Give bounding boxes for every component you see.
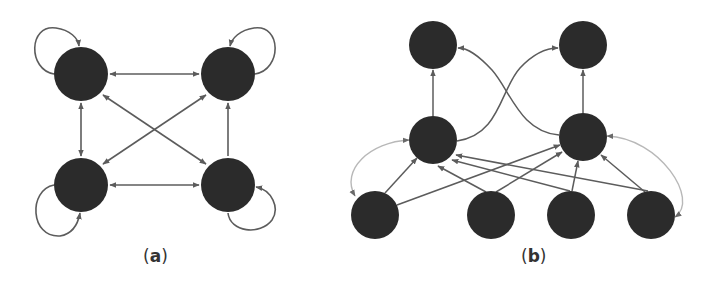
caption-a-letter: a <box>150 246 161 266</box>
node-b-top-right <box>559 21 607 69</box>
node-b-mid-right <box>559 113 607 161</box>
edge-b1-midleft <box>385 158 417 193</box>
node-b-bottom-2 <box>467 191 515 239</box>
node-a1 <box>54 47 108 101</box>
caption-b: (b) <box>521 246 546 266</box>
caption-a-close: ) <box>161 246 168 266</box>
node-b-top-left <box>409 21 457 69</box>
edge-midleft-b1-arc <box>351 140 409 196</box>
edge-b2-midleft <box>438 166 486 192</box>
caption-a-open: ( <box>143 246 150 266</box>
node-b-bottom-3 <box>547 191 595 239</box>
caption-a: (a) <box>143 246 168 266</box>
node-a3 <box>54 158 108 212</box>
node-b-mid-left <box>409 116 457 164</box>
node-a2 <box>201 47 255 101</box>
caption-b-open: ( <box>521 246 528 266</box>
node-b-bottom-4 <box>627 191 675 239</box>
edge-b3-midright <box>572 161 578 191</box>
edge-midright-topleft <box>458 48 559 135</box>
diagram-canvas <box>0 0 722 283</box>
caption-b-letter: b <box>528 246 540 266</box>
node-a4 <box>201 158 255 212</box>
node-b-bottom-1 <box>351 191 399 239</box>
caption-b-close: ) <box>540 246 547 266</box>
